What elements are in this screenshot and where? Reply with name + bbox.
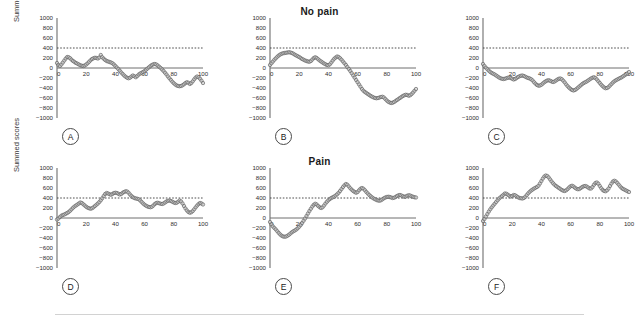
svg-text:60: 60 bbox=[567, 70, 574, 77]
svg-text:−1000: −1000 bbox=[462, 114, 480, 121]
svg-text:600: 600 bbox=[256, 34, 267, 41]
svg-text:800: 800 bbox=[256, 24, 267, 31]
svg-text:0: 0 bbox=[263, 214, 267, 221]
figure-bottom-rule bbox=[55, 314, 584, 315]
panel-c: −1000−800−600−400−2000200400600800100002… bbox=[426, 0, 639, 150]
svg-text:200: 200 bbox=[43, 54, 54, 61]
panel-a-plot: −1000−800−600−400−2000200400600800100002… bbox=[0, 0, 213, 150]
svg-text:200: 200 bbox=[256, 204, 267, 211]
svg-text:0: 0 bbox=[476, 214, 480, 221]
svg-text:−800: −800 bbox=[465, 254, 479, 261]
panel-b-badge: B bbox=[275, 128, 292, 145]
svg-text:20: 20 bbox=[296, 70, 303, 77]
panel-e-badge: E bbox=[275, 278, 292, 295]
svg-text:−600: −600 bbox=[252, 94, 266, 101]
svg-text:60: 60 bbox=[567, 220, 574, 227]
svg-text:1000: 1000 bbox=[465, 164, 479, 171]
svg-text:−800: −800 bbox=[39, 104, 53, 111]
panel-e-plot: −1000−800−600−400−2000200400600800100002… bbox=[213, 150, 426, 300]
svg-text:80: 80 bbox=[383, 70, 390, 77]
svg-text:400: 400 bbox=[469, 44, 480, 51]
svg-text:400: 400 bbox=[469, 194, 480, 201]
svg-text:100: 100 bbox=[198, 220, 209, 227]
svg-text:60: 60 bbox=[354, 70, 361, 77]
panel-b: No pain −1000−800−600−400−20002004006008… bbox=[213, 0, 426, 150]
svg-text:1000: 1000 bbox=[252, 14, 266, 21]
svg-text:−400: −400 bbox=[252, 84, 266, 91]
svg-text:−600: −600 bbox=[252, 244, 266, 251]
panel-f-badge: F bbox=[488, 278, 505, 295]
panel-e: Pain −1000−800−600−400−20002004006008001… bbox=[213, 150, 426, 300]
figure-panel-grid: Summed scores −1000−800−600−400−20002004… bbox=[0, 0, 639, 329]
svg-text:100: 100 bbox=[411, 220, 422, 227]
svg-text:80: 80 bbox=[170, 70, 177, 77]
svg-text:−800: −800 bbox=[252, 254, 266, 261]
svg-text:−200: −200 bbox=[465, 74, 479, 81]
svg-text:0: 0 bbox=[263, 64, 267, 71]
svg-text:80: 80 bbox=[383, 220, 390, 227]
svg-text:200: 200 bbox=[256, 54, 267, 61]
svg-text:−400: −400 bbox=[465, 234, 479, 241]
svg-text:800: 800 bbox=[256, 174, 267, 181]
svg-text:200: 200 bbox=[469, 204, 480, 211]
svg-text:20: 20 bbox=[83, 220, 90, 227]
svg-text:20: 20 bbox=[509, 220, 516, 227]
panel-a: Summed scores −1000−800−600−400−20002004… bbox=[0, 0, 213, 150]
svg-text:20: 20 bbox=[83, 70, 90, 77]
svg-text:−600: −600 bbox=[39, 244, 53, 251]
svg-text:40: 40 bbox=[325, 70, 332, 77]
svg-text:−400: −400 bbox=[252, 234, 266, 241]
svg-text:−1000: −1000 bbox=[462, 264, 480, 271]
svg-text:200: 200 bbox=[43, 204, 54, 211]
svg-text:600: 600 bbox=[43, 184, 54, 191]
panel-d-badge: D bbox=[62, 278, 79, 295]
panel-c-badge: C bbox=[488, 128, 505, 145]
svg-text:600: 600 bbox=[469, 34, 480, 41]
svg-text:80: 80 bbox=[596, 220, 603, 227]
svg-text:80: 80 bbox=[596, 70, 603, 77]
svg-text:400: 400 bbox=[43, 194, 54, 201]
svg-text:100: 100 bbox=[624, 220, 635, 227]
svg-text:−1000: −1000 bbox=[249, 264, 267, 271]
svg-text:40: 40 bbox=[538, 70, 545, 77]
svg-text:600: 600 bbox=[469, 184, 480, 191]
svg-text:800: 800 bbox=[43, 24, 54, 31]
svg-text:400: 400 bbox=[256, 194, 267, 201]
svg-text:−600: −600 bbox=[465, 94, 479, 101]
svg-text:−600: −600 bbox=[39, 94, 53, 101]
svg-text:−800: −800 bbox=[465, 104, 479, 111]
svg-text:−200: −200 bbox=[252, 74, 266, 81]
svg-text:−800: −800 bbox=[39, 254, 53, 261]
svg-text:800: 800 bbox=[469, 24, 480, 31]
svg-text:40: 40 bbox=[325, 220, 332, 227]
svg-text:0: 0 bbox=[57, 70, 61, 77]
svg-text:40: 40 bbox=[538, 220, 545, 227]
svg-text:−200: −200 bbox=[39, 224, 53, 231]
svg-text:0: 0 bbox=[50, 64, 54, 71]
svg-text:80: 80 bbox=[170, 220, 177, 227]
panel-f-plot: −1000−800−600−400−2000200400600800100002… bbox=[426, 150, 639, 300]
panel-grid: Summed scores −1000−800−600−400−20002004… bbox=[0, 0, 639, 300]
svg-text:−400: −400 bbox=[39, 234, 53, 241]
svg-text:−600: −600 bbox=[465, 244, 479, 251]
svg-text:20: 20 bbox=[509, 70, 516, 77]
panel-c-plot: −1000−800−600−400−2000200400600800100002… bbox=[426, 0, 639, 150]
svg-text:40: 40 bbox=[112, 220, 119, 227]
svg-text:100: 100 bbox=[198, 70, 209, 77]
svg-text:0: 0 bbox=[476, 64, 480, 71]
svg-text:60: 60 bbox=[141, 220, 148, 227]
svg-text:0: 0 bbox=[270, 70, 274, 77]
svg-text:1000: 1000 bbox=[252, 164, 266, 171]
svg-text:−1000: −1000 bbox=[36, 264, 54, 271]
panel-f: −1000−800−600−400−2000200400600800100002… bbox=[426, 150, 639, 300]
svg-text:−200: −200 bbox=[465, 224, 479, 231]
svg-text:−400: −400 bbox=[465, 84, 479, 91]
panel-d: Summed scores −1000−800−600−400−20002004… bbox=[0, 150, 213, 300]
svg-text:400: 400 bbox=[256, 44, 267, 51]
svg-text:0: 0 bbox=[50, 214, 54, 221]
svg-text:−1000: −1000 bbox=[36, 114, 54, 121]
svg-text:1000: 1000 bbox=[465, 14, 479, 21]
svg-text:800: 800 bbox=[43, 174, 54, 181]
panel-b-plot: −1000−800−600−400−2000200400600800100002… bbox=[213, 0, 426, 150]
panel-d-plot: −1000−800−600−400−2000200400600800100002… bbox=[0, 150, 213, 300]
